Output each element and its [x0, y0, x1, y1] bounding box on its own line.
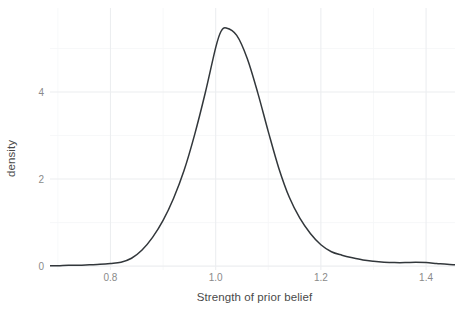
y-tick-label: 4 [38, 86, 44, 97]
y-tick-label: 0 [38, 261, 44, 272]
plot-panel [50, 8, 455, 270]
y-tick-label: 2 [38, 174, 44, 185]
x-tick-label: 1.0 [209, 272, 223, 283]
major-gridlines [50, 8, 455, 270]
x-axis-title: Strength of prior belief [52, 291, 457, 303]
x-tick-label: 1.2 [314, 272, 328, 283]
density-chart: density 024 0.81.01.21.4 Strength of pri… [0, 0, 463, 317]
x-tick-label: 0.8 [104, 272, 118, 283]
plot-area [50, 8, 455, 270]
x-tick-label: 1.4 [419, 272, 433, 283]
y-axis-title: density [0, 0, 22, 317]
